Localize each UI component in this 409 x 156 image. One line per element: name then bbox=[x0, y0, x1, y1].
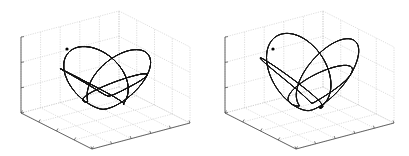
plot-right-canvas bbox=[204, 0, 409, 156]
start-marker bbox=[271, 47, 274, 50]
plot-left bbox=[0, 0, 205, 156]
grid-lines bbox=[225, 11, 394, 149]
trajectory-line bbox=[260, 33, 358, 110]
grid-lines bbox=[21, 11, 190, 149]
plot-left-canvas bbox=[0, 0, 205, 156]
start-marker bbox=[65, 47, 68, 50]
axes bbox=[225, 37, 394, 149]
trajectory-line bbox=[60, 47, 150, 110]
plot-right bbox=[204, 0, 409, 156]
